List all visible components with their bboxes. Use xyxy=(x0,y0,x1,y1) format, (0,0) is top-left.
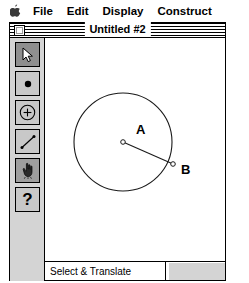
text-hand-tool[interactable] xyxy=(15,158,40,183)
arrow-icon xyxy=(21,47,35,63)
help-tool[interactable]: ? xyxy=(15,187,40,212)
status-divider xyxy=(165,262,166,280)
circle-tool[interactable] xyxy=(15,100,40,125)
point-icon xyxy=(20,76,36,92)
apple-icon[interactable] xyxy=(10,4,23,18)
window-grow-area[interactable] xyxy=(169,263,225,280)
point-a[interactable] xyxy=(121,140,126,145)
point-tool[interactable] xyxy=(15,71,40,96)
segment-tool[interactable] xyxy=(15,129,40,154)
menu-bar: File Edit Display Construct xyxy=(0,0,249,21)
menu-item-construct[interactable]: Construct xyxy=(157,4,211,18)
application-window: File Edit Display Construct Untitled #2 xyxy=(0,0,249,283)
title-bar[interactable]: Untitled #2 xyxy=(10,23,225,38)
document-window: Untitled #2 xyxy=(9,22,226,281)
menu-item-edit[interactable]: Edit xyxy=(67,4,89,18)
tool-palette-foot xyxy=(10,261,45,280)
hand-icon xyxy=(20,162,36,179)
radius-segment[interactable] xyxy=(123,142,173,164)
question-icon: ? xyxy=(22,191,32,208)
window-title: Untitled #2 xyxy=(84,22,150,37)
point-a-label[interactable]: A xyxy=(136,122,146,137)
geometry-drawing: A B xyxy=(45,38,225,260)
close-box-button[interactable] xyxy=(14,25,25,36)
status-bar: Select & Translate xyxy=(45,261,225,280)
menu-item-display[interactable]: Display xyxy=(103,4,144,18)
point-b-label[interactable]: B xyxy=(181,162,190,177)
status-mode-text: Select & Translate xyxy=(50,265,131,278)
segment-icon xyxy=(19,133,37,151)
circle-icon xyxy=(18,103,37,122)
point-b[interactable] xyxy=(171,162,176,167)
selection-arrow-tool[interactable] xyxy=(15,42,40,67)
menu-item-file[interactable]: File xyxy=(33,4,53,18)
tool-palette: ? xyxy=(10,38,45,281)
sketch-canvas[interactable]: A B xyxy=(45,38,225,260)
